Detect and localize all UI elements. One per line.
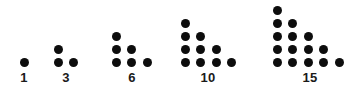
dot <box>288 58 297 67</box>
dot <box>335 58 344 67</box>
dot <box>181 45 190 54</box>
dot <box>54 45 63 54</box>
dot <box>288 32 297 41</box>
dot <box>288 45 297 54</box>
dot <box>212 45 221 54</box>
dot <box>196 45 205 54</box>
dot <box>181 19 190 28</box>
dot <box>20 58 29 67</box>
dot <box>319 58 328 67</box>
dot <box>112 58 121 67</box>
dot <box>112 32 121 41</box>
dot <box>273 6 282 15</box>
dot <box>196 58 205 67</box>
dot <box>181 58 190 67</box>
dot <box>273 32 282 41</box>
group-label-1: 1 <box>20 71 27 85</box>
dot <box>196 32 205 41</box>
dot <box>273 45 282 54</box>
dot <box>127 45 136 54</box>
group-label-3: 3 <box>62 71 69 85</box>
dot <box>54 58 63 67</box>
group-label-15: 15 <box>303 71 318 85</box>
dot <box>319 45 328 54</box>
dot <box>304 58 313 67</box>
dot <box>143 58 152 67</box>
dot <box>273 58 282 67</box>
triangular-numbers-figure: 1361015 <box>0 0 358 93</box>
dot <box>212 58 221 67</box>
dot <box>304 32 313 41</box>
dot <box>127 58 136 67</box>
dot <box>288 19 297 28</box>
dot <box>112 45 121 54</box>
dot <box>69 58 78 67</box>
dot <box>273 19 282 28</box>
group-label-6: 6 <box>128 71 135 85</box>
group-label-10: 10 <box>201 71 216 85</box>
dot <box>304 45 313 54</box>
dot <box>181 32 190 41</box>
dot <box>227 58 236 67</box>
